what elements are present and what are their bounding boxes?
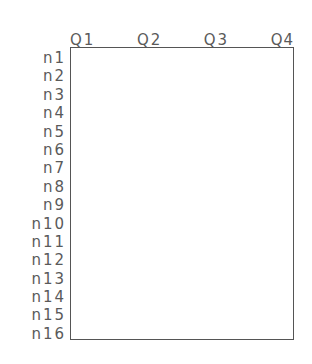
plot-area — [70, 47, 294, 340]
row-label: n6 — [0, 141, 66, 159]
row-label: n2 — [0, 67, 66, 85]
row-label: n8 — [0, 178, 66, 196]
row-label: n14 — [0, 288, 66, 306]
row-label: n12 — [0, 251, 66, 269]
column-label-q3: Q3 — [204, 32, 229, 48]
column-label-q1: Q1 — [70, 32, 95, 48]
row-label: n3 — [0, 86, 66, 104]
row-labels: n1 n2 n3 n4 n5 n6 n7 n8 n9 n10 n11 n12 n… — [0, 49, 66, 343]
column-header: Q1 Q2 Q3 Q4 — [70, 30, 294, 48]
column-label-q2: Q2 — [137, 32, 162, 48]
row-label: n13 — [0, 270, 66, 288]
row-label: n11 — [0, 233, 66, 251]
column-label-q4: Q4 — [271, 32, 294, 48]
row-label: n16 — [0, 325, 66, 343]
row-label: n10 — [0, 215, 66, 233]
row-label: n7 — [0, 159, 66, 177]
row-label: n1 — [0, 49, 66, 67]
row-label: n4 — [0, 104, 66, 122]
row-label: n5 — [0, 123, 66, 141]
row-label: n15 — [0, 306, 66, 324]
row-label: n9 — [0, 196, 66, 214]
